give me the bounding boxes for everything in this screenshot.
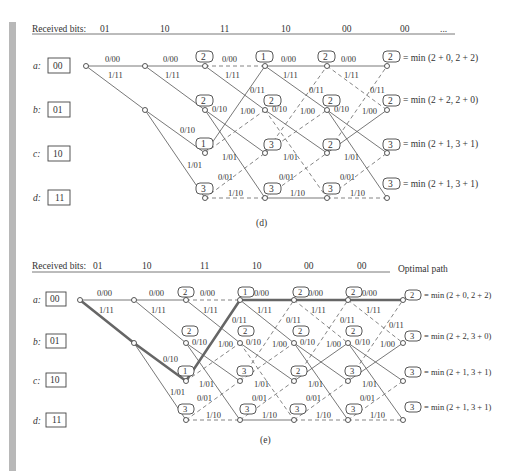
svg-text:0/11: 0/11 [370,85,385,95]
svg-text:3: 3 [350,366,354,376]
svg-text:1/11: 1/11 [108,70,123,80]
svg-text:0/10: 0/10 [212,104,227,114]
svg-text:1/10: 1/10 [370,410,385,420]
svg-text:3: 3 [269,140,274,150]
state-c-label: c: [33,376,40,386]
svg-text:1/01: 1/01 [199,379,214,389]
svg-text:0/10: 0/10 [355,337,370,347]
svg-text:2: 2 [243,326,247,336]
svg-text:0/00: 0/00 [362,288,377,298]
svg-text:1/11: 1/11 [203,305,218,315]
state-c-code: 10 [53,149,63,159]
equation-b: = min (2 + 2, 2 + 0) [403,95,478,106]
equation-d: = min (2 + 1, 3 + 1) [403,179,478,190]
svg-text:2: 2 [351,287,355,297]
svg-text:1/11: 1/11 [151,305,166,315]
svg-text:0/10: 0/10 [192,337,207,347]
svg-text:0/01: 0/01 [306,393,321,403]
svg-text:1: 1 [183,366,187,376]
svg-text:1/10: 1/10 [262,410,277,420]
received-bits-4: 10 [281,24,291,34]
state-a-label: a: [33,295,41,305]
svg-text:0/00: 0/00 [163,54,178,64]
state-a-label: a: [33,61,41,71]
svg-text:1/10: 1/10 [206,410,221,420]
received-bits-2: 10 [142,261,152,271]
svg-text:2: 2 [328,96,333,106]
svg-text:0/11: 0/11 [340,315,355,325]
caption-e: (e) [260,435,271,446]
panel-e: Received bits: 01 10 11 10 00 00 Optimal… [32,261,491,446]
svg-text:0/00: 0/00 [105,54,120,64]
svg-text:1/01: 1/01 [362,379,377,389]
state-b-label: b: [33,337,41,347]
svg-text:1/00: 1/00 [272,339,287,349]
received-bits-4: 10 [252,261,262,271]
svg-text:2: 2 [298,326,302,336]
svg-text:3: 3 [245,404,249,414]
trellis-figure: Received bits: 01 10 11 10 00 00 ... a: … [0,0,523,471]
svg-text:1/00: 1/00 [218,339,233,349]
svg-text:1/11: 1/11 [283,70,298,80]
svg-text:0/00: 0/00 [254,288,269,298]
svg-text:3: 3 [242,366,246,376]
svg-text:0/00: 0/00 [341,54,356,64]
state-d-code: 11 [52,415,61,425]
svg-text:2: 2 [298,287,302,297]
svg-text:2: 2 [201,96,206,106]
svg-text:0/10: 0/10 [163,354,178,364]
svg-text:0/01: 0/01 [340,172,355,182]
svg-text:2: 2 [328,140,333,150]
svg-text:3: 3 [388,140,393,150]
equation-d: = min (2 + 1, 3 + 1) [424,402,491,412]
svg-text:1/10: 1/10 [316,410,331,420]
svg-text:1/00: 1/00 [326,339,341,349]
svg-text:1/01: 1/01 [344,152,359,162]
received-bits-label: Received bits: [32,261,86,271]
svg-text:0/11: 0/11 [232,315,247,325]
state-c-code: 10 [50,375,60,385]
svg-text:1/11: 1/11 [257,305,272,315]
equation-c: = min (2 + 1, 3 + 1) [424,367,491,377]
svg-text:0/00: 0/00 [97,288,112,298]
svg-text:1/11: 1/11 [311,305,326,315]
svg-text:3: 3 [328,184,333,194]
svg-text:3: 3 [410,367,414,377]
svg-text:0/01: 0/01 [360,393,375,403]
svg-text:3: 3 [295,404,299,414]
state-b-label: b: [33,105,41,115]
svg-text:0/10: 0/10 [246,337,261,347]
svg-text:0/00: 0/00 [200,288,215,298]
svg-text:1/10: 1/10 [228,188,243,198]
state-a-code: 00 [50,294,60,304]
svg-text:0/01: 0/01 [218,172,233,182]
svg-text:2: 2 [410,290,414,300]
svg-text:1: 1 [261,52,266,62]
state-d-label: d: [33,416,41,426]
svg-text:2: 2 [323,52,328,62]
state-c-label: c: [33,149,40,159]
equation-a: = min (2 + 0, 2 + 2) [403,53,478,64]
received-bits-6: 00 [357,261,367,271]
svg-text:2: 2 [351,326,355,336]
received-bits-ellipsis: ... [440,24,447,34]
received-bits-6: 00 [400,24,410,34]
svg-text:0/00: 0/00 [222,54,237,64]
state-d-code: 11 [55,193,64,203]
svg-text:0/11: 0/11 [250,85,265,95]
svg-text:0/01: 0/01 [252,393,267,403]
svg-text:2: 2 [183,287,187,297]
svg-text:1: 1 [201,139,206,149]
received-bits-3: 11 [220,24,229,34]
svg-text:3: 3 [388,179,393,189]
svg-text:0/01: 0/01 [279,172,294,182]
svg-text:3: 3 [269,184,274,194]
received-bits-1: 01 [100,24,110,34]
svg-text:2: 2 [296,366,300,376]
svg-text:1/01: 1/01 [308,379,323,389]
received-bits-label: Received bits: [32,24,86,34]
svg-text:0/00: 0/00 [308,288,323,298]
svg-text:1/00: 1/00 [380,339,395,349]
svg-text:1: 1 [243,287,247,297]
svg-text:1/00: 1/00 [240,106,255,116]
